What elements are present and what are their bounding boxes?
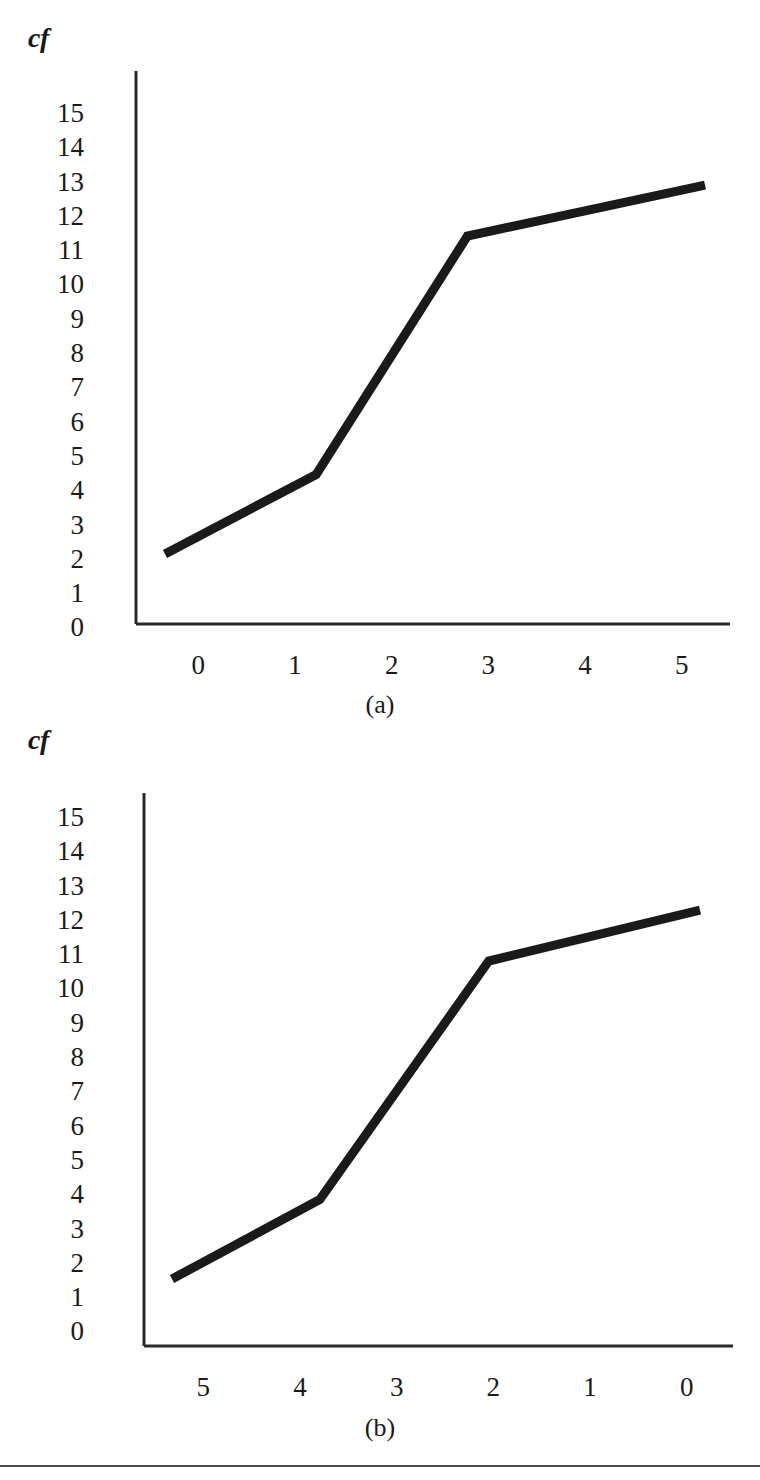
plot-area-b <box>128 777 752 1367</box>
x-tick-label: 1 <box>247 652 344 679</box>
y-tick-label: 13 <box>28 165 84 199</box>
y-tick-label: 12 <box>28 903 84 937</box>
y-tick-label: 6 <box>28 1109 84 1143</box>
y-axis-tick-labels-a: 15 14 13 12 11 10 9 8 7 6 5 4 3 2 1 0 <box>28 96 84 645</box>
y-tick-label: 13 <box>28 869 84 903</box>
x-tick-label: 2 <box>343 652 440 679</box>
y-tick-label: 4 <box>28 473 84 507</box>
y-tick-label: 3 <box>28 1212 84 1246</box>
x-axis-tick-labels-b: 5 4 3 2 1 0 <box>155 1374 735 1401</box>
y-tick-label: 1 <box>28 576 84 610</box>
y-tick-label: 15 <box>28 800 84 834</box>
y-tick-label: 9 <box>28 1006 84 1040</box>
figure-page: cf 15 14 13 12 11 10 9 8 7 6 5 4 3 2 1 0 <box>0 0 760 1480</box>
y-tick-label: 8 <box>28 336 84 370</box>
y-tick-label: 10 <box>28 971 84 1005</box>
y-tick-label: 2 <box>28 1246 84 1280</box>
y-tick-label: 12 <box>28 199 84 233</box>
y-tick-label: 14 <box>28 834 84 868</box>
line-chart-svg-b <box>128 777 752 1367</box>
y-tick-label: 10 <box>28 267 84 301</box>
figure-caption-b: (b) <box>0 1415 760 1441</box>
y-axis-tick-labels-b: 15 14 13 12 11 10 9 8 7 6 5 4 3 2 1 0 <box>28 800 84 1349</box>
y-tick-label: 9 <box>28 302 84 336</box>
y-tick-label: 4 <box>28 1177 84 1211</box>
y-tick-label: 2 <box>28 542 84 576</box>
figure-a: cf 15 14 13 12 11 10 9 8 7 6 5 4 3 2 1 0 <box>0 0 760 720</box>
y-tick-label: 0 <box>28 610 84 644</box>
x-tick-label: 5 <box>155 1374 252 1401</box>
y-axis-title-a: cf <box>28 24 49 52</box>
plot-area-a <box>120 55 744 645</box>
y-tick-label: 11 <box>28 233 84 267</box>
data-line-b <box>172 910 700 1279</box>
y-tick-label: 5 <box>28 1143 84 1177</box>
figure-b: cf 15 14 13 12 11 10 9 8 7 6 5 4 3 2 1 0 <box>0 702 760 1462</box>
y-axis-title-b: cf <box>28 726 49 754</box>
line-chart-svg-a <box>120 55 744 645</box>
y-tick-label: 0 <box>28 1314 84 1348</box>
y-tick-label: 6 <box>28 405 84 439</box>
y-tick-label: 1 <box>28 1280 84 1314</box>
x-tick-label: 5 <box>633 652 730 679</box>
x-tick-label: 0 <box>150 652 247 679</box>
y-tick-label: 11 <box>28 937 84 971</box>
x-tick-label: 1 <box>542 1374 639 1401</box>
y-tick-label: 7 <box>28 370 84 404</box>
x-tick-label: 4 <box>252 1374 349 1401</box>
data-line-a <box>165 185 705 554</box>
y-tick-label: 7 <box>28 1074 84 1108</box>
x-tick-label: 3 <box>348 1374 445 1401</box>
x-tick-label: 4 <box>537 652 634 679</box>
x-axis-tick-labels-a: 0 1 2 3 4 5 <box>150 652 730 679</box>
y-tick-label: 15 <box>28 96 84 130</box>
x-tick-label: 0 <box>638 1374 735 1401</box>
y-tick-label: 8 <box>28 1040 84 1074</box>
y-tick-label: 14 <box>28 130 84 164</box>
x-tick-label: 2 <box>445 1374 542 1401</box>
footer-divider <box>0 1465 760 1467</box>
y-tick-label: 5 <box>28 439 84 473</box>
y-tick-label: 3 <box>28 508 84 542</box>
x-tick-label: 3 <box>440 652 537 679</box>
